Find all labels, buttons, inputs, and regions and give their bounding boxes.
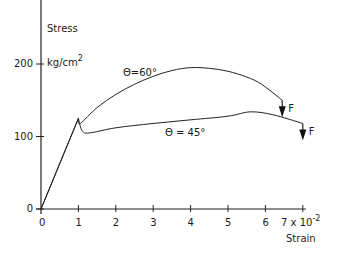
y-tick-label: 0 (27, 203, 33, 214)
x-tick-label: 2 (113, 217, 119, 228)
force-arrows: FF (279, 100, 315, 140)
series-theta-60 (41, 68, 282, 209)
x-tick-label: 6 (262, 217, 268, 228)
force-label: F (309, 126, 315, 137)
x-axis-multiplier: 7 x 10-2 (281, 214, 320, 228)
y-tick-label: 100 (14, 131, 33, 142)
x-axis-label: Strain (286, 233, 316, 244)
arrow-down-icon (279, 106, 286, 117)
x-tick-label: 5 (225, 217, 231, 228)
series-label-theta-60: Θ=60° (123, 67, 157, 78)
y-ticks: 0100200 (14, 58, 44, 214)
x-tick-label: 0 (39, 217, 45, 228)
y-axis-units: kg/cm2 (47, 54, 83, 68)
series-label-theta-45: Θ = 45° (165, 127, 205, 138)
force-label: F (288, 103, 294, 114)
x-tick-label: 1 (75, 217, 81, 228)
y-axis-label: Stress (47, 23, 78, 34)
arrow-down-icon (299, 129, 306, 140)
x-tick-label: 4 (188, 217, 194, 228)
y-tick-label: 200 (14, 58, 33, 69)
stress-strain-chart: 0123456 0100200 Stress kg/cm2 7 x 10-2 S… (0, 0, 348, 256)
x-tick-label: 3 (150, 217, 156, 228)
